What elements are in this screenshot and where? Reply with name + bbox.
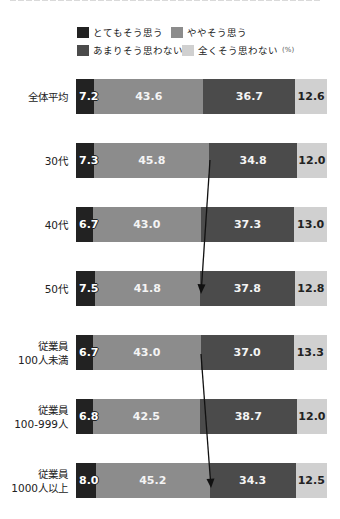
segment-somewhat-disagree: 37.3 xyxy=(201,207,295,242)
segment-somewhat-agree: 42.5 xyxy=(93,399,200,434)
bar-row-50s: 50代 7.5 41.8 37.8 12.8 xyxy=(0,271,340,306)
segment-strongly-disagree: 12.8 xyxy=(295,271,327,306)
segment-strongly-disagree: 12.0 xyxy=(297,399,327,434)
segment-somewhat-disagree: 34.8 xyxy=(209,143,297,178)
segment-somewhat-agree: 45.8 xyxy=(94,143,209,178)
segment-somewhat-agree: 43.6 xyxy=(94,79,203,114)
segment-somewhat-disagree: 36.7 xyxy=(203,79,295,114)
stacked-bar: 7.3 45.8 34.8 12.0 xyxy=(76,143,327,178)
legend-item-strongly-disagree: 全くそう思わない xyxy=(182,43,278,57)
segment-somewhat-agree: 41.8 xyxy=(95,271,200,306)
stacked-bar: 6.7 43.0 37.3 13.0 xyxy=(76,207,327,242)
row-label: 30代 xyxy=(45,143,68,178)
stacked-bar: 7.2 43.6 36.7 12.6 xyxy=(76,79,327,114)
trend-arrows xyxy=(0,0,340,519)
cropped-title-text xyxy=(0,0,340,2)
segment-strongly-disagree: 12.6 xyxy=(295,79,327,114)
legend-item-somewhat-disagree: あまりそう思わない xyxy=(77,43,183,57)
bar-row-employees-1000-plus: 従業員1000人以上 8.0 45.2 34.3 12.5 xyxy=(0,463,340,498)
legend-label: ややそう思う xyxy=(187,25,247,39)
segment-strongly-agree: 7.5 xyxy=(76,271,95,306)
legend-item-somewhat-agree: ややそう思う xyxy=(171,25,247,39)
bar-row-employees-under-100: 従業員100人未満 6.7 43.0 37.0 13.3 xyxy=(0,335,340,370)
segment-strongly-disagree: 12.0 xyxy=(297,143,327,178)
row-label: 全体平均 xyxy=(28,79,68,114)
segment-somewhat-agree: 43.0 xyxy=(93,207,201,242)
segment-strongly-disagree: 13.0 xyxy=(294,207,327,242)
row-label: 従業員100-999人 xyxy=(14,399,68,434)
bar-row-30s: 30代 7.3 45.8 34.8 12.0 xyxy=(0,143,340,178)
legend-swatch xyxy=(171,27,183,38)
bar-row-overall: 全体平均 7.2 43.6 36.7 12.6 xyxy=(0,79,340,114)
legend-label: あまりそう思わない xyxy=(93,43,183,57)
segment-strongly-disagree: 13.3 xyxy=(294,335,327,370)
segment-somewhat-disagree: 37.8 xyxy=(200,271,295,306)
segment-somewhat-agree: 45.2 xyxy=(96,463,209,498)
segment-strongly-agree: 6.7 xyxy=(76,207,93,242)
row-label: 50代 xyxy=(45,271,68,306)
segment-strongly-agree: 6.8 xyxy=(76,399,93,434)
segment-somewhat-disagree: 37.0 xyxy=(201,335,294,370)
row-label: 従業員100人未満 xyxy=(18,335,68,370)
legend-swatch xyxy=(77,27,89,38)
segment-somewhat-agree: 43.0 xyxy=(93,335,201,370)
stacked-bar: 6.8 42.5 38.7 12.0 xyxy=(76,399,327,434)
unit-label: (%) xyxy=(282,46,294,54)
stacked-bar: 7.5 41.8 37.8 12.8 xyxy=(76,271,327,306)
legend-swatch xyxy=(182,45,194,56)
stacked-bar: 6.7 43.0 37.0 13.3 xyxy=(76,335,327,370)
stacked-bar: 8.0 45.2 34.3 12.5 xyxy=(76,463,327,498)
segment-strongly-agree: 8.0 xyxy=(76,463,96,498)
segment-strongly-agree: 6.7 xyxy=(76,335,93,370)
legend-label: とてもそう思う xyxy=(93,25,163,39)
legend-label: 全くそう思わない xyxy=(198,43,278,57)
legend-swatch xyxy=(77,45,89,56)
bar-row-employees-100-999: 従業員100-999人 6.8 42.5 38.7 12.0 xyxy=(0,399,340,434)
segment-somewhat-disagree: 34.3 xyxy=(210,463,296,498)
segment-strongly-agree: 7.3 xyxy=(76,143,94,178)
bar-row-40s: 40代 6.7 43.0 37.3 13.0 xyxy=(0,207,340,242)
legend-item-strongly-agree: とてもそう思う xyxy=(77,25,163,39)
segment-strongly-disagree: 12.5 xyxy=(296,463,327,498)
segment-strongly-agree: 7.2 xyxy=(76,79,94,114)
row-label: 従業員1000人以上 xyxy=(11,463,68,498)
segment-somewhat-disagree: 38.7 xyxy=(200,399,297,434)
row-label: 40代 xyxy=(45,207,68,242)
